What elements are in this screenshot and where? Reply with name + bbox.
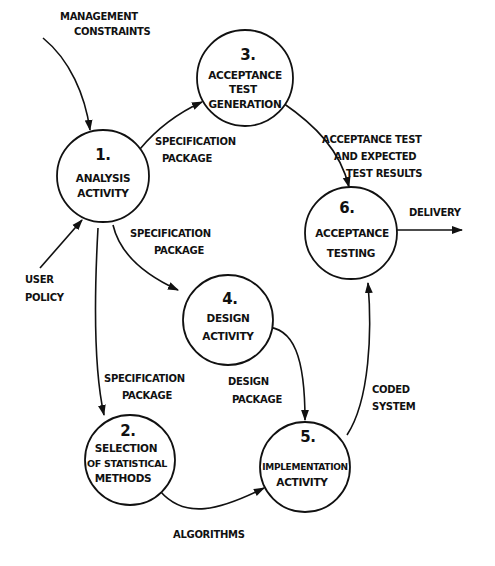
flow-label-design-package: DESIGN PACKAGE (228, 376, 282, 405)
node-number: 5. (300, 428, 316, 446)
figure-caption-clipped (50, 561, 380, 566)
node-label-line: SELECTION (95, 442, 157, 454)
node-number: 1. (95, 146, 111, 164)
flow-label-line: SPECIFICATION (130, 228, 211, 239)
flow-label-acceptance-test-results: ACCEPTANCE TEST AND EXPECTED TEST RESULT… (322, 134, 422, 179)
flow-label-line: USER (25, 274, 54, 285)
flow-label-line: ALGORITHMS (173, 529, 245, 540)
node-number: 3. (240, 46, 256, 64)
flow-label-spec-package-1-3: SPECIFICATION PACKAGE (155, 136, 236, 164)
flow-arrow-management-constraints (43, 38, 90, 130)
node-label-line: ACTIVITY (77, 187, 129, 199)
node-label-line: ACCEPTANCE (208, 69, 282, 81)
node-label-line: ACTIVITY (276, 476, 328, 488)
flow-label-line: PACKAGE (232, 394, 282, 405)
flow-label-line: DELIVERY (409, 207, 462, 218)
flow-label-line: TEST RESULTS (346, 168, 422, 179)
flow-label-spec-package-1-4: SPECIFICATION PACKAGE (130, 228, 211, 256)
flow-label-line: MANAGEMENT (60, 11, 138, 22)
flow-label-algorithms: ALGORITHMS (173, 529, 245, 540)
flow-label-line: PACKAGE (154, 245, 204, 256)
flow-label-line: SPECIFICATION (155, 136, 236, 147)
flow-arrow-user-policy (40, 220, 82, 268)
flow-label-line: SPECIFICATION (104, 373, 185, 384)
flow-label-spec-package-1-2: SPECIFICATION PACKAGE (104, 373, 185, 401)
flow-label-line: SYSTEM (372, 401, 416, 412)
flow-label-line: CONSTRAINTS (74, 26, 151, 37)
node-label-line: GENERATION (209, 98, 282, 110)
flow-label-delivery: DELIVERY (409, 207, 462, 218)
node-number: 2. (120, 422, 136, 440)
flow-label-line: POLICY (25, 292, 65, 303)
node-label-line: TEST (229, 83, 258, 95)
node-label-line: ACCEPTANCE (315, 227, 389, 239)
flow-label-user-policy: USER POLICY (25, 274, 65, 303)
node-number: 6. (339, 199, 355, 217)
flow-arrow-3-to-6 (283, 103, 349, 187)
flow-arrow-1-to-2 (96, 228, 104, 415)
node-label-line: ACTIVITY (202, 330, 254, 342)
flow-arrow-2-to-5 (160, 488, 264, 509)
flow-label-line: ACCEPTANCE TEST (322, 134, 422, 145)
node-label-line: IMPLEMENTATION (262, 462, 348, 472)
flow-label-line: PACKAGE (122, 390, 172, 401)
flow-label-line: PACKAGE (162, 153, 212, 164)
node-number: 4. (222, 290, 238, 308)
node-label-line: ANALYSIS (76, 172, 130, 184)
node-label-line: TESTING (327, 247, 375, 259)
flow-label-line: AND EXPECTED (334, 151, 416, 162)
node-label-line: OF STATISTICAL (87, 458, 167, 469)
flow-label-line: CODED (372, 384, 410, 395)
flow-label-line: DESIGN (228, 376, 269, 387)
flow-arrow-5-to-6 (347, 283, 370, 435)
flow-label-coded-system: CODED SYSTEM (372, 384, 416, 412)
node-label-line: METHODS (95, 472, 152, 484)
data-flow-diagram: 1. ANALYSIS ACTIVITY 3. ACCEPTANCE TEST … (0, 0, 495, 566)
flow-label-management-constraints: MANAGEMENT CONSTRAINTS (60, 11, 151, 37)
node-label-line: DESIGN (207, 312, 250, 324)
